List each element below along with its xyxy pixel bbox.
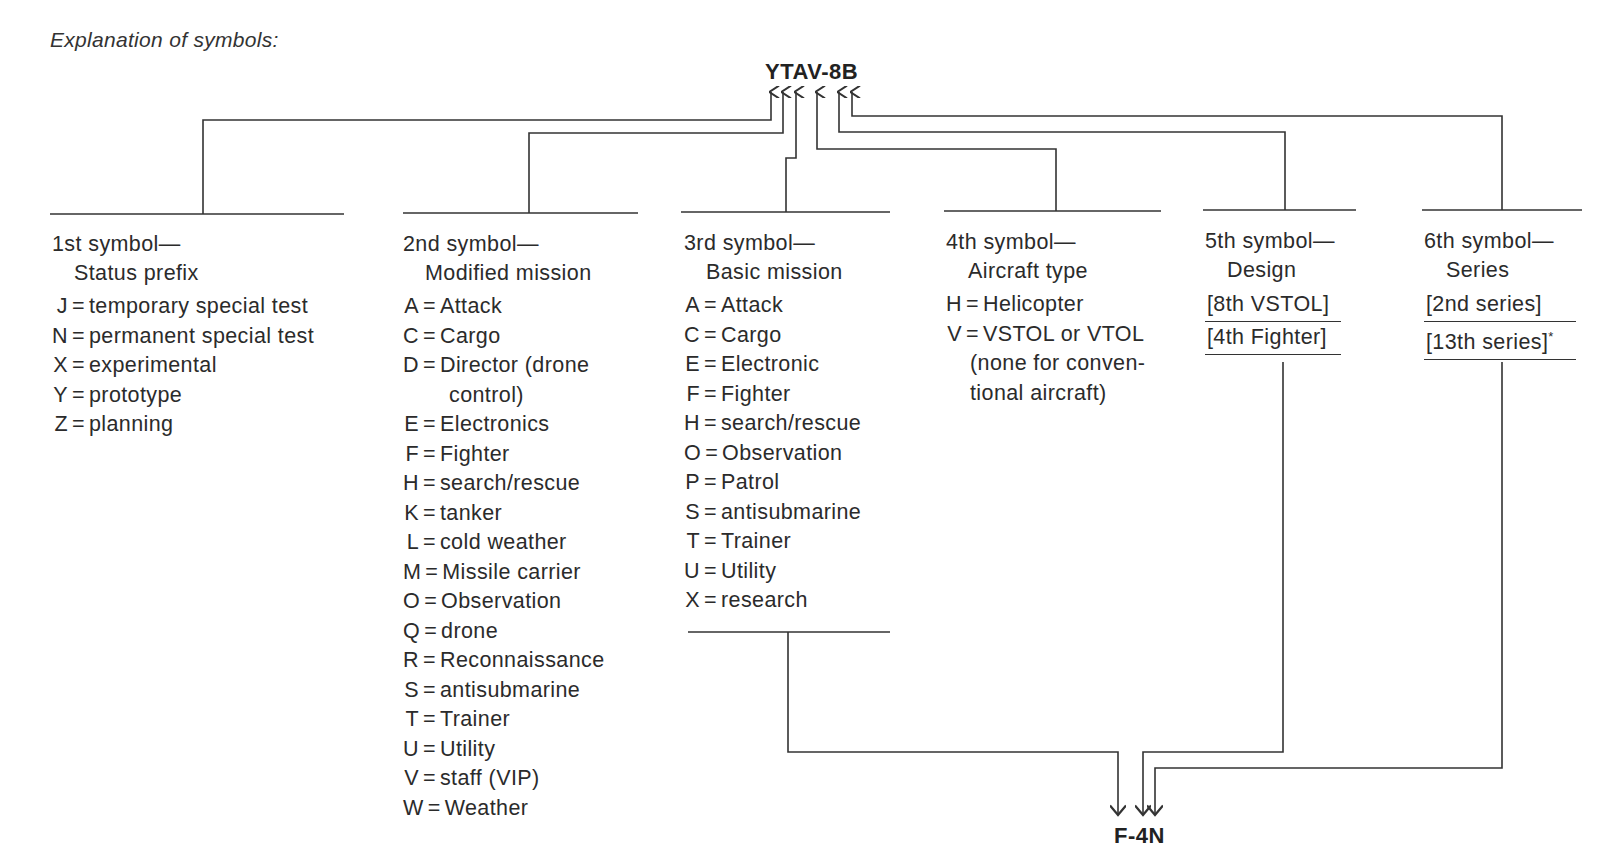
note-line: (none for conven- — [946, 349, 1145, 379]
column-modified-mission: 2nd symbol— Modified mission A=Attack C=… — [403, 230, 605, 823]
column-heading: 6th symbol— — [1424, 227, 1576, 256]
list-item: V=staff (VIP) — [403, 764, 605, 794]
column-heading: 1st symbol— — [52, 230, 314, 259]
list-item: X=research — [684, 586, 861, 616]
list-item: T=Trainer — [403, 705, 605, 735]
list-item: J=temporary special test — [52, 292, 314, 322]
note-line: tional aircraft) — [946, 379, 1145, 409]
column-subheading: Basic mission — [684, 258, 861, 287]
list-item: Q=drone — [403, 617, 605, 647]
column-subheading: Modified mission — [403, 259, 605, 288]
connector-B — [852, 92, 1502, 210]
list-item: D=Director (drone — [403, 351, 605, 381]
list-item: Z=planning — [52, 410, 314, 440]
connector-Y — [203, 92, 771, 214]
example-designation-top: YTAV-8B — [765, 59, 858, 85]
column-design: 5th symbol— Design [8th VSTOL] [4th Figh… — [1205, 227, 1341, 355]
list-item: W=Weather — [403, 794, 605, 824]
list-item: L=cold weather — [403, 528, 605, 558]
list-item: C=Cargo — [403, 322, 605, 352]
list-item: E=Electronic — [684, 350, 861, 380]
list-item: K=tanker — [403, 499, 605, 529]
connector-N — [1155, 362, 1502, 815]
column-heading: 3rd symbol— — [684, 229, 861, 258]
footnote-mark: * — [1548, 329, 1553, 344]
diagram-caption: Explanation of symbols: — [50, 28, 279, 52]
list-item: R=Reconnaissance — [403, 646, 605, 676]
list-item: M=Missile carrier — [403, 558, 605, 588]
list-item: E=Electronics — [403, 410, 605, 440]
connector-8 — [839, 92, 1285, 210]
list-item-continuation: control) — [403, 381, 605, 411]
list-item: H=search/rescue — [403, 469, 605, 499]
connector-4 — [1143, 362, 1283, 815]
column-subheading: Series — [1424, 256, 1576, 285]
list-item: H=search/rescue — [684, 409, 861, 439]
list-item: A=Attack — [684, 291, 861, 321]
list-item: P=Patrol — [684, 468, 861, 498]
connector-V — [817, 92, 1056, 211]
list-item: F=Fighter — [684, 380, 861, 410]
series-example-top: [2nd series] — [1424, 289, 1576, 322]
list-item: V=VSTOL or VTOL — [946, 320, 1145, 350]
column-status-prefix: 1st symbol— Status prefix J=temporary sp… — [52, 230, 314, 440]
list-item: N=permanent special test — [52, 322, 314, 352]
design-example-bottom: [4th Fighter] — [1205, 322, 1341, 355]
list-item: X=experimental — [52, 351, 314, 381]
list-item: S=antisubmarine — [403, 676, 605, 706]
list-item: U=Utility — [403, 735, 605, 765]
column-basic-mission: 3rd symbol— Basic mission A=Attack C=Car… — [684, 229, 861, 616]
column-aircraft-type: 4th symbol— Aircraft type H=Helicopter V… — [946, 228, 1145, 408]
list-item: U=Utility — [684, 557, 861, 587]
list-item: F=Fighter — [403, 440, 605, 470]
column-series: 6th symbol— Series [2nd series] [13th se… — [1424, 227, 1576, 360]
column-heading: 4th symbol— — [946, 228, 1145, 257]
column-subheading: Status prefix — [52, 259, 314, 288]
design-example-top: [8th VSTOL] — [1205, 289, 1341, 322]
column-heading: 5th symbol— — [1205, 227, 1341, 256]
list-item: T=Trainer — [684, 527, 861, 557]
list-item: C=Cargo — [684, 321, 861, 351]
list-item: O=Observation — [403, 587, 605, 617]
list-item: S=antisubmarine — [684, 498, 861, 528]
column-subheading: Aircraft type — [946, 257, 1145, 286]
series-example-bottom: [13th series]* — [1424, 322, 1576, 360]
connector-T — [529, 92, 783, 213]
connector-F — [788, 632, 1118, 815]
list-item: O=Observation — [684, 439, 861, 469]
list-item: Y=prototype — [52, 381, 314, 411]
example-designation-bottom: F-4N — [1114, 823, 1165, 849]
list-item: H=Helicopter — [946, 290, 1145, 320]
list-item: A=Attack — [403, 292, 605, 322]
connector-A — [786, 92, 796, 212]
column-subheading: Design — [1205, 256, 1341, 285]
column-heading: 2nd symbol— — [403, 230, 605, 259]
